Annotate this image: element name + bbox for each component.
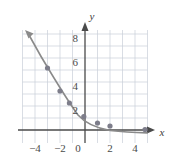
data-point xyxy=(142,127,147,132)
y-axis xyxy=(82,22,89,143)
data-point xyxy=(95,120,100,125)
y-tick-label: 4 xyxy=(73,80,79,92)
x-tick-label: 2 xyxy=(107,142,113,154)
data-point xyxy=(81,114,86,119)
y-axis-label: y xyxy=(89,10,95,22)
y-tick-label: 6 xyxy=(73,56,79,68)
plot-area: −4 −2 0 2 4 2 4 6 8 y x xyxy=(0,0,169,167)
x-tick-label: −2 xyxy=(54,142,66,154)
data-point xyxy=(67,100,72,105)
data-point xyxy=(57,88,62,93)
data-point xyxy=(107,123,112,128)
x-tick-label: 4 xyxy=(132,142,138,154)
x-tick-label: 0 xyxy=(75,142,81,154)
data-point xyxy=(45,65,50,70)
y-tick-label: 8 xyxy=(73,32,79,44)
x-tick-label: −4 xyxy=(29,142,41,154)
exponential-decay-graph: −4 −2 0 2 4 2 4 6 8 y x xyxy=(0,0,169,167)
x-axis-label: x xyxy=(159,126,165,138)
y-tick-label: 2 xyxy=(73,104,79,116)
